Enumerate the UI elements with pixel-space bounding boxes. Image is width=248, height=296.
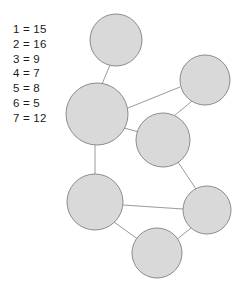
graph-node-layer bbox=[66, 14, 231, 278]
graph-edge bbox=[123, 205, 183, 209]
graph-edge bbox=[176, 228, 191, 240]
graph-edge bbox=[124, 128, 139, 132]
graph-node[interactable] bbox=[67, 174, 123, 230]
diagram-canvas: 1 = 15 2 = 16 3 = 9 4 = 7 5 = 8 6 = 5 7 … bbox=[0, 0, 248, 296]
graph-edge bbox=[178, 162, 196, 189]
graph-edge bbox=[128, 87, 180, 108]
graph-node[interactable] bbox=[90, 14, 142, 66]
graph-node[interactable] bbox=[183, 186, 231, 234]
graph-node[interactable] bbox=[180, 55, 230, 105]
graph-node[interactable] bbox=[132, 228, 182, 278]
graph-edge bbox=[102, 65, 110, 84]
graph-edge bbox=[174, 101, 192, 116]
graph-node[interactable] bbox=[136, 113, 190, 167]
graph-edge bbox=[114, 222, 139, 240]
graph-node[interactable] bbox=[66, 83, 128, 145]
node-link-graph bbox=[0, 0, 248, 296]
